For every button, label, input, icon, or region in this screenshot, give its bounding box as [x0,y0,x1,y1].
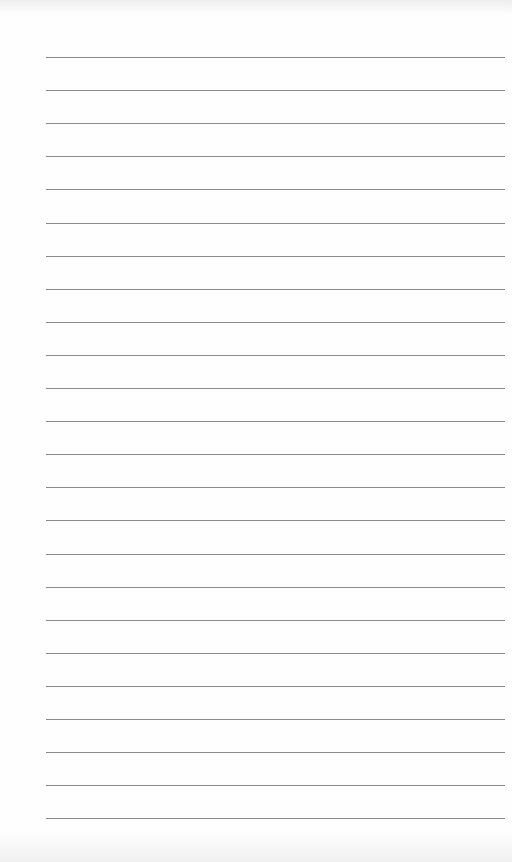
ruled-line [46,421,505,422]
ruled-line [46,620,505,621]
ruled-line [46,156,505,157]
ruled-line [46,90,505,91]
ruled-line [46,818,505,819]
ruled-line [46,653,505,654]
ruled-line [46,785,505,786]
ruled-line [46,256,505,257]
ruled-line [46,289,505,290]
ruled-line [46,487,505,488]
ruled-line [46,57,505,58]
bottom-edge-shadow [0,832,512,862]
ruled-line [46,123,505,124]
ruled-line [46,322,505,323]
ruled-line [46,719,505,720]
ruled-line [46,587,505,588]
ruled-line [46,388,505,389]
ruled-line [46,686,505,687]
ruled-line [46,189,505,190]
ruled-line [46,355,505,356]
ruled-line [46,752,505,753]
ruled-line [46,454,505,455]
ruled-line [46,554,505,555]
lined-paper-page [0,0,512,862]
ruled-line [46,223,505,224]
top-edge-shadow [0,0,512,14]
ruled-line [46,520,505,521]
